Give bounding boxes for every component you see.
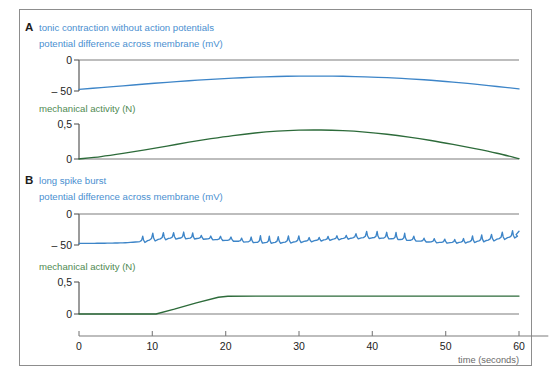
x-axis-ticks — [79, 331, 519, 336]
panel-b-membrane-tick-minus50: – 50 — [52, 239, 73, 251]
panel-a-mechanical-yaxis — [74, 124, 79, 159]
x-axis-label-10: 10 — [146, 340, 158, 352]
panel-a-membrane-trace — [79, 76, 519, 89]
x-axis-label-0: 0 — [76, 340, 82, 352]
x-axis-label-50: 50 — [440, 340, 452, 352]
figure-root: A tonic contraction without action poten… — [0, 0, 549, 376]
panel-b-title: long spike burst — [39, 175, 107, 186]
panel-b-mechanical-trace — [79, 296, 519, 314]
panel-b-letter: B — [25, 174, 33, 186]
x-axis-label-60: 60 — [513, 340, 525, 352]
panel-b-membrane-yaxis — [74, 214, 79, 245]
panel-b-mechanical-label: mechanical activity (N) — [39, 261, 136, 272]
x-axis-label-30: 30 — [293, 340, 305, 352]
panel-a-mechanical-trace — [79, 130, 519, 159]
figure-canvas: A tonic contraction without action poten… — [0, 0, 549, 376]
panel-a-membrane-tick-0: 0 — [66, 54, 72, 66]
panel-a-mech-tick-0: 0 — [66, 153, 72, 165]
panel-b-mech-tick-0: 0 — [66, 308, 72, 320]
x-axis-tick-labels: 0102030405060 — [76, 340, 525, 352]
x-axis-caption: time (seconds) — [458, 355, 519, 365]
panel-a-letter: A — [25, 21, 33, 33]
panel-b-membrane-tick-0: 0 — [66, 208, 72, 220]
panel-a-membrane-yaxis — [74, 60, 79, 91]
panel-b-mech-tick-05: 0,5 — [57, 276, 72, 288]
panel-a-membrane-tick-minus50: – 50 — [52, 85, 73, 97]
panel-a-membrane-label: potential difference across membrane (mV… — [39, 38, 223, 49]
panel-a-title: tonic contraction without action potenti… — [39, 22, 214, 33]
panel-a-mechanical-label: mechanical activity (N) — [39, 103, 136, 114]
x-axis-label-40: 40 — [366, 340, 378, 352]
panel-a-mech-tick-05: 0,5 — [57, 118, 72, 130]
panel-b-mechanical-yaxis — [74, 282, 79, 314]
panel-b-membrane-trace — [79, 231, 519, 244]
x-axis-label-20: 20 — [220, 340, 232, 352]
panel-b-membrane-label: potential difference across membrane (mV… — [39, 191, 223, 202]
